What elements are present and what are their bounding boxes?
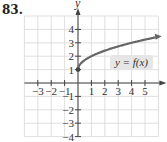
function-graph: xy−3−2−1123454321−1−2−3−4y = f(x) xyxy=(0,0,167,142)
y-tick-label: 1 xyxy=(69,64,75,76)
y-tick-label: 2 xyxy=(69,50,75,62)
y-tick-label: −4 xyxy=(62,131,74,142)
y-tick-label: 4 xyxy=(69,23,75,35)
x-tick-label: 3 xyxy=(115,85,121,97)
y-tick-label: −2 xyxy=(62,104,74,116)
y-tick-label: −3 xyxy=(62,117,74,129)
x-tick-label: 1 xyxy=(89,85,95,97)
y-tick-label: 3 xyxy=(69,37,75,49)
y-tick-label: −1 xyxy=(62,90,74,102)
function-label: y = f(x) xyxy=(114,56,148,69)
x-tick-label: 4 xyxy=(129,85,135,97)
x-tick-label: −3 xyxy=(32,85,44,97)
y-axis-label: y xyxy=(74,0,81,10)
x-tick-label: 5 xyxy=(142,85,148,97)
x-tick-label: 2 xyxy=(102,85,108,97)
x-axis-arrow-icon xyxy=(159,81,166,86)
x-tick-label: −2 xyxy=(45,85,57,97)
start-point-dot xyxy=(76,67,81,72)
